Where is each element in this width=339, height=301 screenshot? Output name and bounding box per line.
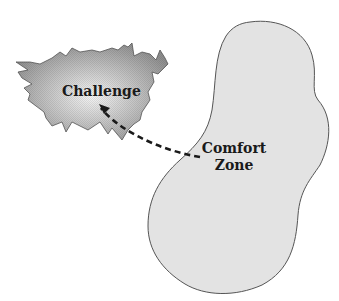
challenge-label: Challenge [62,83,140,99]
comfort-zone-label: Comfort Zone [196,140,272,174]
diagram-canvas: Challenge Comfort Zone [0,0,339,301]
diagram-svg [0,0,339,301]
comfort-zone-label-line1: Comfort [196,140,272,157]
comfort-zone-label-line2: Zone [196,157,272,174]
